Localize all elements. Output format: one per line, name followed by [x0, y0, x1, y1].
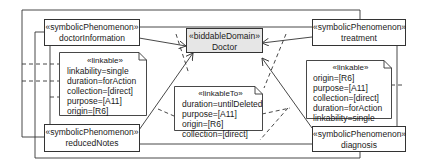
note-line: purpose=[A11] [182, 109, 259, 119]
note-line: collection=[direct] [182, 129, 259, 139]
domain-name: Doctor [187, 42, 262, 53]
note-line: origin=[R6] [67, 106, 143, 116]
phenomenon-doctor-information[interactable]: «symbolicPhenomenon» doctorInformation [44, 19, 140, 46]
note-line: duration=untilDeleted [182, 99, 259, 109]
note-line: collection=[direct] [313, 93, 388, 103]
note-left-linkable[interactable]: «linkable» linkability=single duration=f… [59, 52, 147, 116]
phenomenon-reduced-notes[interactable]: «symbolicPhenomenon» reducedNotes [44, 124, 140, 152]
stereotype-label: «symbolicPhenomenon» [313, 22, 405, 33]
phenomenon-treatment[interactable]: «symbolicPhenomenon» treatment [312, 19, 406, 46]
note-line: purpose=[A11] [67, 96, 143, 106]
stereotype-label: «symbolicPhenomenon» [45, 22, 139, 33]
domain-doctor[interactable]: «biddableDomain» Doctor [186, 28, 263, 53]
note-line: origin=[R6] [182, 119, 259, 129]
note-line: duration=forAction [313, 103, 388, 113]
stereotype-label: «symbolicPhenomenon» [45, 127, 139, 138]
stereotype-label: «biddableDomain» [187, 31, 262, 42]
note-right-linkable[interactable]: «linkable» origin=[R6] purpose=[A11] col… [306, 60, 392, 119]
phenomenon-name: treatment [313, 33, 405, 44]
phenomenon-name: doctorInformation [45, 33, 139, 44]
phenomenon-name: reducedNotes [45, 138, 139, 149]
note-line: origin=[R6] [313, 73, 388, 83]
note-center-linkable-to[interactable]: «linkableTo» duration=untilDeleted purpo… [174, 86, 263, 131]
note-line: duration=forAction [67, 76, 143, 86]
stereotype-label: «symbolicPhenomenon» [313, 129, 405, 140]
phenomenon-diagnosis[interactable]: «symbolicPhenomenon» diagnosis [312, 126, 406, 152]
note-stereotype: «linkable» [313, 63, 388, 73]
phenomenon-name: diagnosis [313, 140, 405, 151]
note-stereotype: «linkableTo» [182, 89, 259, 99]
note-line: purpose=[A11] [313, 83, 388, 93]
note-line: linkability=single [67, 66, 143, 76]
note-line: collection=[direct] [67, 86, 143, 96]
note-stereotype: «linkable» [67, 56, 143, 66]
note-line: linkability=single [313, 113, 388, 123]
